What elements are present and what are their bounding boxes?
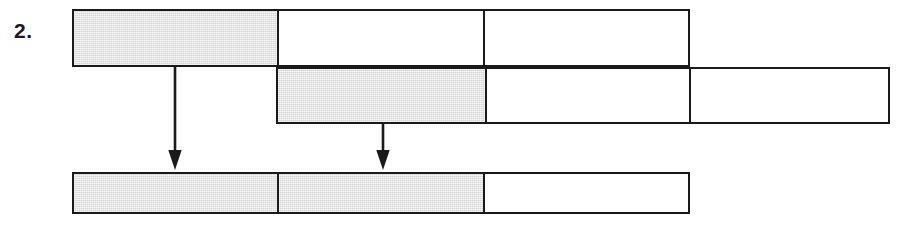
top-strip-row-2 [276,67,890,124]
strip-segment-unshaded [483,11,688,65]
top-strip-row-1 [72,9,690,67]
strip-segment-unshaded [483,174,688,212]
exercise-number-label: 2. [14,20,33,41]
arrow-from-row-2-shaded [374,123,392,172]
strip-segment-shaded [278,69,485,122]
strip-segment-shaded [74,174,277,212]
result-strip [72,172,690,214]
strip-segment-shaded [74,11,277,65]
strip-segment-unshaded [689,69,888,122]
strip-segment-shaded [277,174,484,212]
exercise-canvas: 2. [0,0,909,237]
arrow-from-row-1-shaded [166,66,184,172]
strip-segment-unshaded [277,11,484,65]
strip-segment-unshaded [485,69,690,122]
